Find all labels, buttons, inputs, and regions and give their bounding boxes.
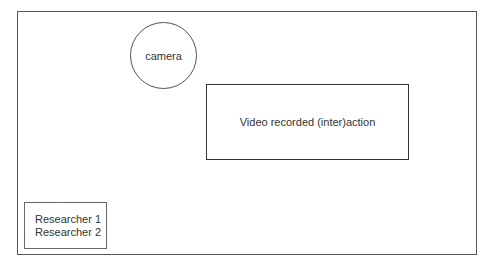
video-interaction-node: Video recorded (inter)action [206,84,409,160]
researcher-1-label: Researcher 1 [35,213,106,226]
video-label: Video recorded (inter)action [240,116,376,128]
researchers-node: Researcher 1 Researcher 2 [24,202,107,249]
researcher-2-label: Researcher 2 [35,226,106,239]
camera-label: camera [145,50,182,62]
camera-node: camera [130,22,197,89]
